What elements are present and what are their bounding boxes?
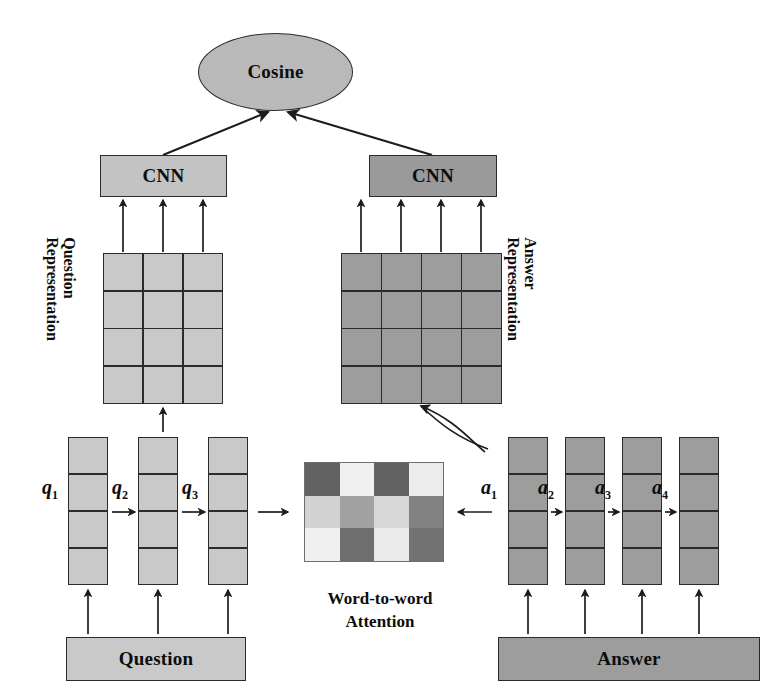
answer-representation-label-line2: Representation: [505, 237, 522, 397]
vector-symbol: a: [652, 476, 662, 498]
question-input-box: Question: [66, 637, 246, 681]
answer-vector-4-label: a4: [652, 476, 668, 503]
answer-input-label: Answer: [597, 648, 660, 670]
edge-attention-to-amatrix-curve: [421, 406, 485, 452]
matrix-cell: [382, 292, 421, 328]
matrix-cell: [382, 367, 421, 403]
attention-cell: [340, 463, 375, 496]
attention-caption: Word-to-word Attention: [290, 588, 470, 634]
question-representation-label: Question Representation: [44, 237, 79, 397]
vector-cell: [209, 549, 247, 584]
matrix-cell: [342, 292, 381, 328]
vector-cell: [139, 512, 177, 547]
attention-cell: [374, 463, 409, 496]
attention-cell: [340, 496, 375, 529]
vector-subscript: 3: [192, 488, 198, 502]
vector-cell: [566, 438, 604, 473]
edge-cnn-question-to-cosine: [163, 112, 268, 155]
vector-subscript: 2: [122, 488, 128, 502]
vector-cell: [139, 549, 177, 584]
edge-cnn-answer-to-cosine: [288, 112, 432, 155]
question-vector-1-label: q1: [42, 476, 58, 503]
vector-symbol: q: [182, 476, 192, 498]
vector-symbol: a: [538, 476, 548, 498]
attention-cell: [374, 496, 409, 529]
vector-symbol: q: [42, 476, 52, 498]
vector-cell: [69, 549, 107, 584]
vector-cell: [209, 475, 247, 510]
diagram-canvas: Cosine CNN CNN: [0, 0, 784, 700]
vector-cell: [566, 512, 604, 547]
attention-caption-line2: Attention: [290, 611, 470, 634]
attention-cell: [305, 528, 340, 561]
attention-cell: [409, 528, 444, 561]
attention-cell: [409, 496, 444, 529]
attention-caption-line1: Word-to-word: [290, 588, 470, 611]
answer-representation-label-line1: Answer: [522, 237, 539, 397]
attention-cell: [409, 463, 444, 496]
vector-cell: [139, 438, 177, 473]
question-vector-3: [208, 437, 248, 585]
answer-vector-2: [565, 437, 605, 585]
vector-cell: [69, 475, 107, 510]
word-to-word-attention-heatmap: [304, 462, 444, 562]
vector-symbol: a: [595, 476, 605, 498]
matrix-cell: [422, 329, 461, 365]
vector-cell: [680, 438, 718, 473]
question-vector-2-label: q2: [112, 476, 128, 503]
vector-subscript: 2: [548, 488, 554, 502]
matrix-cell: [104, 329, 142, 365]
vector-cell: [509, 549, 547, 584]
question-representation-label-line1: Question: [61, 237, 78, 397]
vector-subscript: 1: [491, 488, 497, 502]
vector-cell: [680, 475, 718, 510]
cosine-node: Cosine: [198, 33, 353, 111]
attention-cell: [305, 496, 340, 529]
answer-input-box: Answer: [498, 637, 760, 681]
vector-symbol: q: [112, 476, 122, 498]
answer-vector-4: [679, 437, 719, 585]
matrix-cell: [144, 329, 182, 365]
vector-subscript: 1: [52, 488, 58, 502]
matrix-cell: [184, 254, 222, 290]
answer-vector-2-label: a2: [538, 476, 554, 503]
matrix-cell: [422, 292, 461, 328]
cnn-answer-node: CNN: [369, 155, 497, 197]
attention-cell: [305, 463, 340, 496]
vector-cell: [680, 512, 718, 547]
vector-cell: [209, 512, 247, 547]
vector-cell: [209, 438, 247, 473]
matrix-cell: [144, 367, 182, 403]
vector-cell: [680, 549, 718, 584]
matrix-cell: [462, 254, 501, 290]
matrix-cell: [342, 367, 381, 403]
matrix-cell: [104, 254, 142, 290]
answer-vector-3-label: a3: [595, 476, 611, 503]
attention-cell: [374, 528, 409, 561]
answer-vector-1: [508, 437, 548, 585]
matrix-cell: [342, 329, 381, 365]
answer-vector-3: [622, 437, 662, 585]
vector-subscript: 4: [662, 488, 668, 502]
attention-cell: [340, 528, 375, 561]
matrix-cell: [462, 367, 501, 403]
edge-attention-curve-tail: [421, 406, 488, 449]
matrix-cell: [382, 329, 421, 365]
vector-cell: [623, 438, 661, 473]
cosine-label: Cosine: [247, 61, 303, 83]
question-vector-2: [138, 437, 178, 585]
matrix-cell: [422, 254, 461, 290]
vector-cell: [509, 438, 547, 473]
matrix-cell: [104, 367, 142, 403]
answer-vector-1-label: a1: [481, 476, 497, 503]
vector-subscript: 3: [605, 488, 611, 502]
matrix-cell: [342, 254, 381, 290]
cnn-question-node: CNN: [100, 155, 227, 197]
matrix-cell: [144, 254, 182, 290]
matrix-cell: [462, 329, 501, 365]
question-vector-3-label: q3: [182, 476, 198, 503]
matrix-cell: [104, 292, 142, 328]
answer-representation-label: Answer Representation: [505, 237, 540, 397]
vector-symbol: a: [481, 476, 491, 498]
matrix-cell: [382, 254, 421, 290]
